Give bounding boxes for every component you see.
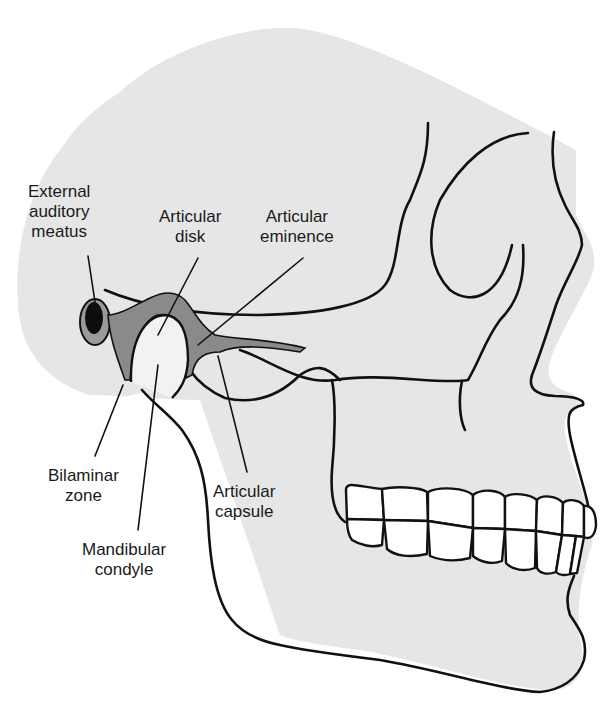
label-line: condyle <box>82 560 166 580</box>
label-line: Articular <box>159 207 221 227</box>
label-line: Mandibular <box>82 540 166 560</box>
label-external-auditory-meatus: External auditory meatus <box>28 182 90 242</box>
skull-illustration <box>0 0 613 704</box>
meatus-opening <box>85 302 103 334</box>
label-line: zone <box>48 486 119 506</box>
label-line: External <box>28 182 90 202</box>
label-articular-disk: Articular disk <box>159 207 221 247</box>
label-line: Articular <box>260 207 334 227</box>
label-line: meatus <box>28 222 90 242</box>
label-line: Bilaminar <box>48 466 119 486</box>
label-line: disk <box>159 227 221 247</box>
label-mandibular-condyle: Mandibular condyle <box>82 540 166 580</box>
label-articular-capsule: Articular capsule <box>213 482 275 522</box>
label-line: Articular <box>213 482 275 502</box>
label-line: eminence <box>260 227 334 247</box>
label-articular-eminence: Articular eminence <box>260 207 334 247</box>
label-bilaminar-zone: Bilaminar zone <box>48 466 119 506</box>
label-line: capsule <box>213 502 275 522</box>
label-line: auditory <box>28 202 90 222</box>
tmj-diagram: External auditory meatus Articular disk … <box>0 0 613 704</box>
